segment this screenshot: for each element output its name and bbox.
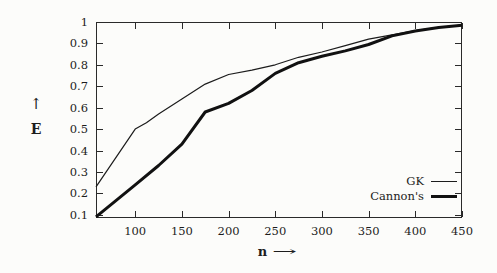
- y-axis-letter: E: [31, 121, 42, 137]
- series-line-gk: [96, 25, 462, 187]
- legend-entry-cannons: Cannon's: [370, 189, 457, 204]
- x-axis-letter: n: [258, 244, 267, 259]
- x-tick-label: 450: [451, 224, 473, 238]
- x-tick-label: 300: [311, 224, 333, 238]
- y-tick-label: 0.7: [0, 80, 88, 92]
- x-tick-label: 150: [171, 224, 193, 238]
- x-tick-label: 400: [404, 224, 426, 238]
- right-arrow-icon: →: [272, 244, 297, 259]
- legend-entry-gk: GK: [370, 174, 457, 189]
- up-arrow-icon: ↑: [30, 96, 43, 112]
- y-tick-label: 0.9: [0, 37, 88, 49]
- legend-label-gk: GK: [406, 174, 424, 189]
- y-tick-label: 0.3: [0, 166, 88, 178]
- x-axis-label: n→: [96, 244, 462, 259]
- gk-line-sample-icon: [431, 181, 457, 182]
- x-tick-label: 200: [218, 224, 240, 238]
- legend: GK Cannon's: [370, 174, 457, 204]
- y-tick-label: 1: [0, 16, 88, 28]
- y-axis-label: ↑ E: [27, 96, 45, 137]
- x-tick-label: 100: [124, 224, 146, 238]
- x-tick-label: 350: [358, 224, 380, 238]
- y-tick-label: 0.2: [0, 187, 88, 199]
- legend-label-cannons: Cannon's: [370, 189, 424, 204]
- x-tick-label: 250: [264, 224, 286, 238]
- efficiency-figure: 0.10.20.30.40.50.60.70.80.91 10015020025…: [0, 0, 497, 273]
- y-tick-label: 0.8: [0, 59, 88, 71]
- cannons-line-sample-icon: [431, 195, 457, 198]
- y-tick-label: 0.4: [0, 145, 88, 157]
- y-tick-label: 0.1: [0, 209, 88, 221]
